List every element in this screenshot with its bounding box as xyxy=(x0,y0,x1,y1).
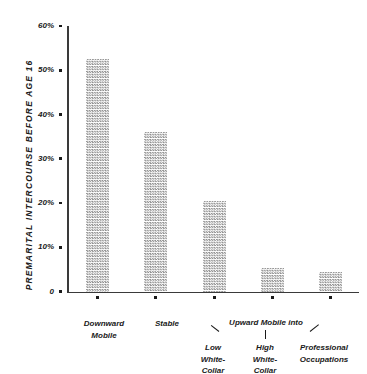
y-axis-tick-mark xyxy=(59,25,62,28)
y-axis-tick: 20% xyxy=(0,198,67,208)
bar-chart: PREMARITAL INTERCOURSE BEFORE AGE 16 60%… xyxy=(0,0,367,374)
bar xyxy=(203,201,226,292)
y-axis-tick: 60% xyxy=(0,21,67,31)
x-axis-tick-mark xyxy=(329,296,332,299)
x-axis-tick-mark xyxy=(96,296,99,299)
bar xyxy=(261,268,284,291)
y-axis-tick: 10% xyxy=(0,242,67,252)
x-tick-label-downward-mobile: Downward Mobile xyxy=(68,318,140,341)
x-axis-tick-mark xyxy=(271,296,274,299)
y-axis-tick-label: 50% xyxy=(38,65,54,75)
y-axis-tick-label: 20% xyxy=(38,198,54,208)
y-axis-tick-label: 10% xyxy=(38,242,54,252)
x-axis-tick-mark xyxy=(154,296,157,299)
y-axis-tick-label: 60% xyxy=(38,21,54,31)
y-axis-tick-mark xyxy=(59,246,62,249)
x-tick-label-professional-occupations: Professional Occupations xyxy=(284,342,364,365)
y-axis-tick: 30% xyxy=(0,154,67,164)
leader-line-high-white-collar xyxy=(265,330,266,339)
plot-area xyxy=(69,26,360,292)
bar xyxy=(86,59,109,291)
y-axis-tick: 50% xyxy=(0,65,67,75)
y-axis-tick-label: 30% xyxy=(38,154,54,164)
x-axis-group-annotation: Upward Mobile into xyxy=(198,318,334,327)
y-axis-tick: 0 xyxy=(0,287,67,297)
y-axis-tick: 40% xyxy=(0,110,67,120)
y-axis-tick-mark xyxy=(59,157,62,160)
bar xyxy=(144,132,167,291)
y-axis-tick-mark xyxy=(59,202,62,205)
y-axis-tick-label: 0 xyxy=(50,287,54,297)
y-axis-title: PREMARITAL INTERCOURSE BEFORE AGE 16 xyxy=(24,35,34,315)
y-axis-tick-mark xyxy=(59,69,62,72)
y-axis-tick-mark xyxy=(59,290,62,293)
x-axis-tick-mark xyxy=(213,296,216,299)
y-axis-tick-label: 40% xyxy=(38,110,54,120)
x-tick-label-stable: Stable xyxy=(131,318,203,330)
bar xyxy=(319,272,342,291)
y-axis-tick-mark xyxy=(59,113,62,116)
x-axis-line xyxy=(67,292,359,294)
